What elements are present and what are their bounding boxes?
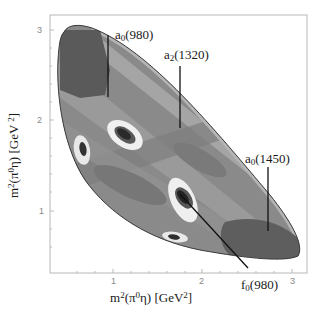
label-a0-1450: a0(1450) — [245, 152, 290, 167]
y-tick-1: 1 — [39, 207, 44, 216]
y-tick-2: 2 — [37, 116, 42, 125]
y-tick-3: 3 — [37, 26, 42, 35]
label-a2-1320: a2(1320) — [164, 48, 209, 63]
x-axis-ticks — [77, 269, 292, 273]
x-tick-2: 2 — [199, 277, 204, 286]
label-a0-980: a0(980) — [115, 28, 153, 43]
label-f0-980: f0(980) — [241, 278, 278, 293]
x-tick-1: 1 — [111, 277, 116, 286]
x-tick-3: 3 — [290, 277, 295, 286]
y-axis-ticks — [50, 30, 54, 247]
x-axis-label: m2(π0η) [GeV2] — [110, 290, 192, 306]
y-axis-label: m2(π0η) [GeV 2] — [6, 113, 22, 198]
